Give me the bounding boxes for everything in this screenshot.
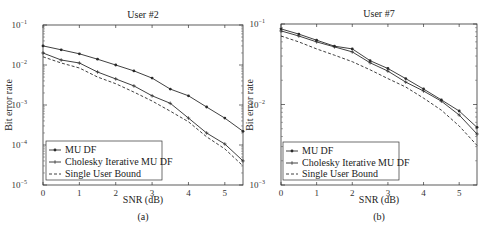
x-tick-label: 0 <box>279 188 284 198</box>
x-axis-label: SNR (dB) <box>123 194 163 206</box>
y-tick-label: 10−3 <box>250 179 265 190</box>
figure: User #2 10−110−210−310−410−5 012345 SNR … <box>0 0 492 230</box>
y-tick-label: 10−1 <box>12 19 27 30</box>
legend: MU DF Cholesky Iterative MU DF Single Us… <box>283 142 410 180</box>
legend-label-cholesky: Cholesky Iterative MU DF <box>302 157 410 168</box>
chart-title: User #2 <box>127 9 158 20</box>
panel-caption: (b) <box>373 211 385 223</box>
legend: MU DF Cholesky Iterative MU DF Single Us… <box>46 141 173 180</box>
series-lines <box>279 27 479 145</box>
x-tick-label: 4 <box>186 188 191 198</box>
x-tick-label: 1 <box>77 188 82 198</box>
legend-label-mu-df: MU DF <box>302 145 334 156</box>
panel-a-user-2: User #2 10−110−210−310−410−5 012345 SNR … <box>3 9 245 223</box>
y-axis-label: Bit error rate <box>244 79 255 131</box>
x-tick-label: 5 <box>457 188 462 198</box>
y-tick-label: 10−4 <box>12 139 27 150</box>
y-tick-label: 10−2 <box>12 59 27 70</box>
series-line-2 <box>281 36 477 145</box>
panel-b-user-7: User #7 10−110−210−3 012345 SNR (dB) Bit… <box>244 8 479 223</box>
y-tick-label: 10−5 <box>12 179 27 190</box>
y-tick-label: 10−1 <box>250 18 265 29</box>
x-tick-label: 2 <box>113 188 118 198</box>
series-line-0 <box>43 46 243 131</box>
chart-title: User #7 <box>363 8 394 19</box>
x-tick-label: 5 <box>223 188 228 198</box>
x-tick-label: 1 <box>314 188 319 198</box>
x-tick-label: 4 <box>421 188 426 198</box>
series-line-0 <box>281 29 477 128</box>
x-axis-label: SNR (dB) <box>359 194 399 206</box>
x-tick-label: 2 <box>350 188 355 198</box>
legend-label-single-user: Single User Bound <box>65 168 141 179</box>
legend-label-mu-df: MU DF <box>65 144 97 155</box>
panel-caption: (a) <box>137 211 148 223</box>
y-axis-label: Bit error rate <box>3 79 14 131</box>
legend-label-single-user: Single User Bound <box>302 168 378 179</box>
x-tick-label: 0 <box>41 188 46 198</box>
legend-label-cholesky: Cholesky Iterative MU DF <box>65 156 173 167</box>
